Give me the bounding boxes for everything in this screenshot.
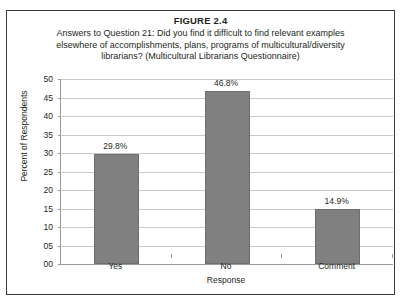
y-axis-tick-labels: 0005101520253035404550 bbox=[29, 79, 53, 264]
caption-line-3: librarians? (Multicultural Librarians Qu… bbox=[18, 51, 383, 63]
y-axis-tick-mark bbox=[58, 79, 61, 80]
y-axis-tick-mark bbox=[58, 153, 61, 154]
chart-plot: Percent of Respondents 00051015202530354… bbox=[7, 69, 394, 294]
y-axis-title: Percent of Respondents bbox=[19, 71, 29, 201]
x-axis-tick-mark bbox=[392, 254, 393, 258]
y-axis-tick-label: 25 bbox=[44, 167, 53, 177]
y-axis-tick-label: 40 bbox=[44, 111, 53, 121]
y-axis-tick-mark bbox=[58, 98, 61, 99]
x-axis-category-label: No bbox=[171, 261, 281, 271]
figure-number-title: FIGURE 2.4 bbox=[7, 15, 394, 26]
y-axis-tick-mark bbox=[58, 135, 61, 136]
caption-line-1: Answers to Question 21: Did you find it … bbox=[18, 28, 383, 40]
y-axis-tick-mark bbox=[58, 246, 61, 247]
y-axis-tick-label: 10 bbox=[44, 222, 53, 232]
y-axis-tick-mark bbox=[58, 227, 61, 228]
y-axis-tick-label: 00 bbox=[44, 259, 53, 269]
x-axis-title: Response bbox=[60, 275, 392, 285]
y-axis-tick-mark bbox=[58, 116, 61, 117]
y-axis-tick-label: 35 bbox=[44, 130, 53, 140]
y-axis-tick-mark bbox=[58, 190, 61, 191]
y-axis-tick-label: 50 bbox=[44, 74, 53, 84]
x-axis-tick-mark bbox=[171, 254, 172, 258]
x-axis-tick-mark bbox=[281, 254, 282, 258]
figure-caption: Answers to Question 21: Did you find it … bbox=[18, 28, 383, 63]
caption-line-2: elsewhere of accomplishments, plans, pro… bbox=[18, 40, 383, 52]
x-axis-category-label: Yes bbox=[60, 261, 170, 271]
plot-area bbox=[60, 79, 393, 265]
y-axis-tick-mark bbox=[58, 172, 61, 173]
bar-comment bbox=[315, 209, 360, 264]
figure-frame: FIGURE 2.4 Answers to Question 21: Did y… bbox=[6, 10, 395, 295]
y-axis-tick-label: 20 bbox=[44, 185, 53, 195]
y-axis-tick-label: 05 bbox=[44, 241, 53, 251]
x-axis-category-label: Comment bbox=[282, 261, 392, 271]
bar-yes bbox=[94, 154, 139, 264]
bar-value-label: 46.8% bbox=[186, 78, 266, 88]
bar-value-label: 29.8% bbox=[75, 141, 155, 151]
y-axis-tick-mark bbox=[58, 209, 61, 210]
bar-no bbox=[205, 91, 250, 264]
y-axis-tick-label: 30 bbox=[44, 148, 53, 158]
y-axis-tick-label: 15 bbox=[44, 204, 53, 214]
bar-value-label: 14.9% bbox=[297, 196, 377, 206]
y-axis-tick-label: 45 bbox=[44, 93, 53, 103]
